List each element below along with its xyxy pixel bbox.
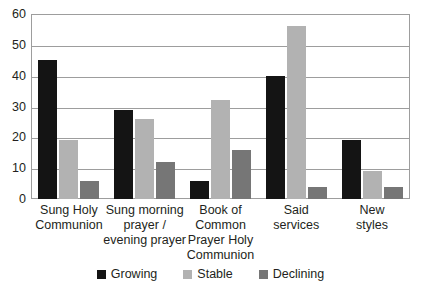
y-tick-label: 20 [12,131,26,144]
bar-growing [190,181,209,200]
bar-group [31,14,107,199]
y-tick-label: 60 [12,8,26,21]
legend-swatch-icon [259,270,268,279]
x-axis-label: Newstyles [326,203,418,233]
bar-declining [384,187,403,199]
y-tick-label: 50 [12,39,26,52]
bar-stable [59,140,78,199]
bar-stable [363,171,382,199]
bar-group [258,14,334,199]
bar-declining [308,187,327,199]
legend-label: Growing [111,268,158,281]
bar-growing [38,60,57,199]
legend-label: Declining [273,268,324,281]
x-axis-label-line: styles [326,218,418,233]
bars-layer [31,14,410,199]
x-axis-label-line: Communion [175,248,267,263]
legend: GrowingStableDeclining [0,268,421,281]
x-axis-labels: Sung HolyCommunionSung morningprayer /ev… [31,203,410,263]
legend-item-growing[interactable]: Growing [97,268,158,281]
bar-group [107,14,183,199]
grouped-bar-chart: 0102030405060 Sung HolyCommunionSung mor… [0,0,421,294]
bar-declining [156,162,175,199]
bar-declining [80,181,99,200]
bar-declining [232,150,251,199]
y-tick-label: 10 [12,162,26,175]
legend-item-stable[interactable]: Stable [183,268,232,281]
x-axis-label-line: New [326,203,418,218]
y-tick-label: 40 [12,69,26,82]
x-axis-label-line: Prayer Holy [175,233,267,248]
y-axis: 0102030405060 [0,0,31,213]
bar-group [334,14,410,199]
legend-swatch-icon [97,270,106,279]
legend-label: Stable [197,268,232,281]
bar-stable [211,100,230,199]
legend-swatch-icon [183,270,192,279]
bar-growing [266,76,285,199]
bar-group [183,14,259,199]
bar-stable [287,26,306,199]
bar-growing [114,110,133,199]
y-tick-label: 30 [12,100,26,113]
bar-growing [342,140,361,199]
bar-stable [135,119,154,199]
legend-item-declining[interactable]: Declining [259,268,324,281]
